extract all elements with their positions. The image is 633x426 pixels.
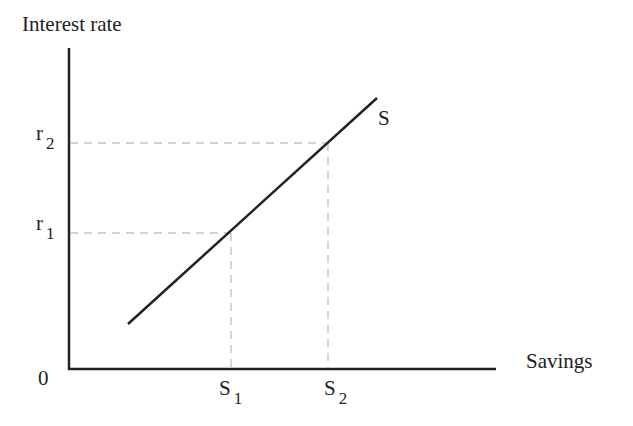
supply-curve [128,98,377,324]
tick-sub: 1 [234,389,243,408]
tick-sub: 2 [339,389,348,408]
tick-r2: r2 [36,123,55,144]
tick-s1: S1 [219,378,242,399]
tick-base: S [324,376,336,400]
origin-label: 0 [38,368,49,389]
tick-base: r [36,211,43,235]
tick-base: S [219,376,231,400]
tick-base: r [36,121,43,145]
x-axis-label: Savings [526,351,593,372]
y-axis-label: Interest rate [22,14,122,35]
tick-sub: 2 [46,134,55,153]
tick-s2: S2 [324,378,347,399]
tick-sub: 1 [46,224,55,243]
tick-r1: r1 [36,213,55,234]
curve-label: S [378,108,390,129]
